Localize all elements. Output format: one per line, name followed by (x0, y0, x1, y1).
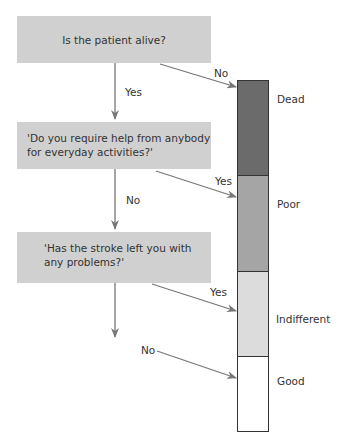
branch-label-q3-yes: Yes (210, 286, 227, 298)
arrow-q3-no (157, 351, 236, 378)
branch-label-q1-no: No (214, 67, 228, 79)
flow-arrows (0, 0, 344, 446)
branch-label-q1-yes: Yes (125, 86, 142, 98)
branch-label-q2-yes: Yes (215, 175, 232, 187)
branch-label-q3-no: No (141, 344, 155, 356)
branch-label-q2-no: No (126, 194, 140, 206)
